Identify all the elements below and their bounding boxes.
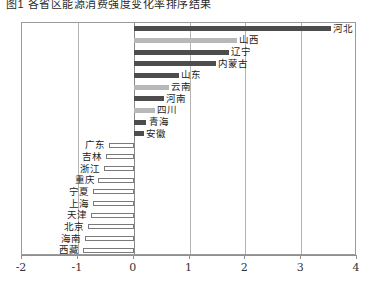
bar: [106, 154, 133, 159]
bar: [104, 166, 134, 171]
bars-group: 河北山西辽宁内蒙古山东云南河南四川青海安徽广东吉林浙江重庆宁夏上海天津北京海南西…: [22, 23, 355, 254]
bar-label: 北京: [64, 222, 84, 232]
bar-label: 西藏: [59, 245, 79, 255]
bar-label: 重庆: [75, 175, 95, 185]
bar-label: 云南: [171, 82, 191, 92]
bar-label: 青海: [149, 117, 169, 127]
bar: [134, 85, 169, 90]
bar-label: 河北: [333, 24, 353, 34]
x-tick-mark: [189, 255, 190, 259]
bar: [134, 96, 164, 101]
figure-container: 图1 各省区能源消费强度变化率排序结果 河北山西辽宁内蒙古山东云南河南四川青海安…: [0, 0, 375, 285]
x-tick-mark: [356, 255, 357, 259]
bar-label: 宁夏: [69, 187, 89, 197]
x-tick-mark: [244, 255, 245, 259]
bar-label: 安徽: [146, 129, 166, 139]
x-tick-label: -2: [6, 261, 36, 275]
bar-label: 辽宁: [231, 47, 251, 57]
bar-label: 四川: [157, 105, 177, 115]
figure-caption: 图1 各省区能源消费强度变化率排序结果: [6, 0, 366, 13]
bar: [134, 38, 237, 43]
plot-area: 河北山西辽宁内蒙古山东云南河南四川青海安徽广东吉林浙江重庆宁夏上海天津北京海南西…: [21, 22, 356, 255]
bar: [134, 120, 147, 125]
bar: [134, 61, 216, 66]
bar-label: 河南: [166, 94, 186, 104]
bar: [109, 143, 134, 148]
bar: [134, 131, 144, 136]
bar: [91, 213, 134, 218]
bar-label: 内蒙古: [218, 59, 248, 69]
x-tick-label: 4: [341, 261, 371, 275]
bar-label: 山西: [239, 35, 259, 45]
x-tick-mark: [21, 255, 22, 259]
x-tick-label: 1: [174, 261, 204, 275]
bar: [134, 50, 229, 55]
x-tick-label: -1: [62, 261, 92, 275]
bar-label: 山东: [181, 70, 201, 80]
bar: [93, 201, 134, 206]
bar-label: 浙江: [80, 164, 100, 174]
bar: [134, 26, 331, 31]
bar: [88, 224, 133, 229]
x-tick-mark: [300, 255, 301, 259]
bar-label: 广东: [85, 140, 105, 150]
bar: [93, 189, 133, 194]
bar-label: 天津: [67, 210, 87, 220]
x-tick-mark: [133, 255, 134, 259]
bar: [85, 236, 134, 241]
x-tick-label: 3: [285, 261, 315, 275]
x-tick-mark: [77, 255, 78, 259]
bar-label: 上海: [69, 199, 89, 209]
bar: [134, 108, 156, 113]
x-tick-label: 2: [229, 261, 259, 275]
bar: [98, 178, 133, 183]
bar-label: 吉林: [82, 152, 102, 162]
bar-label: 海南: [61, 234, 81, 244]
bar: [134, 73, 179, 78]
bar: [83, 248, 134, 253]
x-tick-label: 0: [118, 261, 148, 275]
